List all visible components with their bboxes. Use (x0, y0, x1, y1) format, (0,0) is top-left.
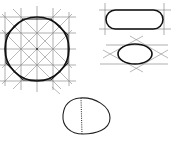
ellipse-rhombus-figure (100, 36, 168, 72)
sketch-diagram (0, 0, 171, 141)
oval-axis-figure (52, 87, 110, 134)
rounded-rectangle-figure (99, 3, 171, 35)
circle-grid-figure (0, 6, 76, 92)
